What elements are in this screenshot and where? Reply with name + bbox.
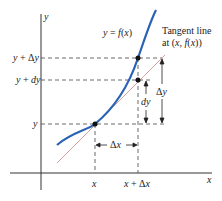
dy-label: dy (141, 96, 151, 107)
y-plus-delta-y-label: y + Δy (12, 52, 40, 63)
delta-x-label: Δx (110, 139, 121, 150)
x-label: x (91, 178, 97, 189)
delta-y-label: Δy (156, 86, 167, 97)
point-tangent-at-x-dx (136, 78, 141, 83)
y-plus-dy-label: y + dy (15, 74, 41, 85)
y-label: y (32, 118, 38, 129)
point-x-dx-fy (136, 56, 141, 61)
point-x-fx (93, 122, 98, 127)
x-axis-label: x (206, 174, 212, 185)
y-axis-label: y (43, 11, 49, 22)
diagram-canvas: y x y = f(x) Tangent line at (x, f(x)) y… (0, 0, 222, 201)
tangent-label-line2: at (x, f(x)) (162, 37, 202, 49)
x-plus-delta-x-label: x + Δx (123, 178, 151, 189)
curve-label: y = f(x) (102, 27, 132, 39)
tangent-label-line1: Tangent line (162, 25, 212, 36)
